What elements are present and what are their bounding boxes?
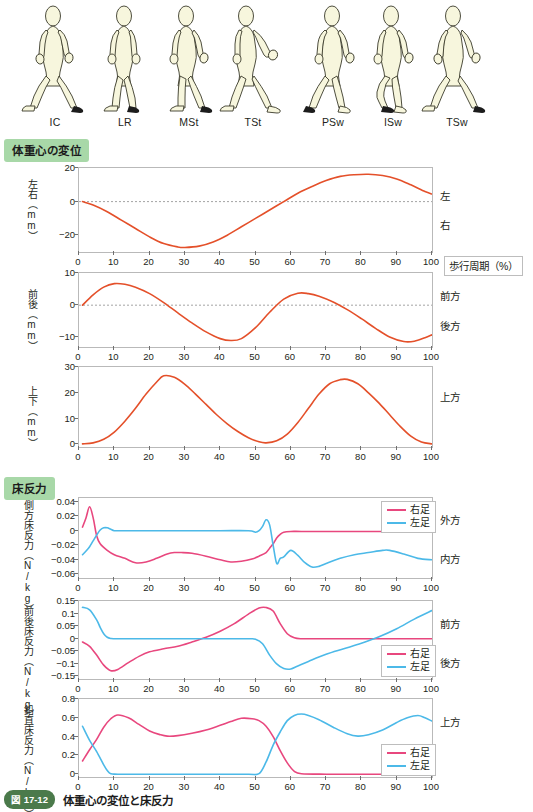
right-label-posterior-grf: 後方 [440,655,460,670]
x-axis-tick-label: 70 [320,451,331,462]
silhouette-isw [356,4,430,116]
y-axis-tick-label: 0.04 [42,495,75,506]
y-axis-tick-mark [74,600,78,601]
x-axis-tick-label: 50 [249,351,260,362]
y-axis-tick-mark [74,638,78,639]
y-axis-tick-mark [74,736,78,737]
x-axis-tick-label: 10 [108,256,119,267]
x-axis-tick-label: 10 [108,683,119,694]
x-axis-tick-mark [325,446,326,450]
y-axis-tick-mark [74,559,78,560]
x-axis-tick-label: 40 [214,683,225,694]
y-axis-tick-label: 0.6 [42,711,75,722]
legend-label-left-foot: 左足 [410,661,430,674]
x-axis-tick-mark [290,446,291,450]
gait-phase-label-tst: TSt [216,116,290,128]
plot-area-anteroposterior [78,272,433,348]
legend-label-right-foot: 右足 [410,648,430,661]
x-axis-tick-label: 60 [285,781,296,792]
y-axis-tick-mark [74,613,78,614]
x-axis-tick-label: 100 [423,256,439,267]
right-label-left-direction: 左 [440,188,450,203]
y-axis-tick-label: −0.1 [42,657,75,668]
x-axis-tick-mark [219,251,220,255]
y-axis-label-mediolateral-grf: 側方床反力（N/kg） [20,500,35,596]
y-axis-tick-label: −20 [42,229,75,240]
x-axis-tick-mark [219,346,220,350]
x-axis-tick-mark [396,346,397,350]
x-axis-tick-mark [149,678,150,682]
x-axis-tick-mark [360,251,361,255]
y-axis-tick-label: −0.02 [42,539,75,550]
series-line-左右変位 [83,174,432,247]
plot-area-mediolateral-grf [78,497,433,579]
series-line-上下変位 [83,375,432,443]
x-axis-tick-label: 30 [179,256,190,267]
legend-vertical-grf: 右足 左足 [381,744,436,776]
x-axis-tick-label: 0 [75,256,80,267]
right-label-medial: 内方 [440,551,460,566]
x-axis-tick-mark [219,446,220,450]
x-axis-tick-label: 60 [285,256,296,267]
x-axis-tick-label: 40 [214,351,225,362]
y-axis-tick-label: 30 [42,361,75,372]
legend-row-left-foot: 左足 [387,517,430,530]
y-axis-tick-label: −0.15 [42,670,75,681]
legend-swatch-left-foot [387,666,406,668]
legend-row-right-foot: 右足 [387,504,430,517]
x-axis-tick-label: 40 [214,781,225,792]
y-axis-tick-label: 0 [42,768,75,779]
legend-swatch-right-foot [387,653,406,655]
x-axis-tick-mark [325,776,326,780]
x-axis-tick-label: 0 [75,582,80,593]
y-axis-label-vertical: 上下（mm） [24,385,39,449]
x-axis-tick-mark [78,251,79,255]
y-axis-tick-mark [74,234,78,235]
x-axis-tick-mark [149,251,150,255]
gait-phase-label-ic: IC [18,116,92,128]
y-axis-tick-mark [74,201,78,202]
plot-area-mediolateral [78,167,433,253]
y-axis-tick-mark [74,754,78,755]
right-label-posterior: 後方 [440,318,460,333]
right-label-anterior: 前方 [440,288,460,303]
x-axis-tick-mark [360,577,361,581]
y-axis-tick-label: 0.2 [42,749,75,760]
x-axis-tick-mark [219,678,220,682]
x-axis-tick-label: 10 [108,351,119,362]
y-axis-tick-label: 0.15 [42,595,75,606]
x-axis-tick-mark [78,446,79,450]
x-axis-tick-mark [149,346,150,350]
x-axis-tick-mark [360,346,361,350]
x-axis-tick-mark [396,251,397,255]
x-axis-tick-mark [431,776,432,780]
x-axis-tick-mark [255,251,256,255]
x-axis-tick-mark [113,678,114,682]
y-axis-tick-mark [74,773,78,774]
figure-page: IC LR MSt TSt PSw ISw TSw 体重心の変位 左右（mm） … [0,0,533,812]
x-axis-tick-mark [325,577,326,581]
x-axis-tick-label: 30 [179,582,190,593]
x-axis-tick-mark [290,251,291,255]
x-axis-tick-label: 50 [249,256,260,267]
x-axis-tick-mark [325,251,326,255]
x-axis-tick-mark [78,577,79,581]
y-axis-tick-label: 0 [42,299,75,310]
series-line-右足 [83,507,432,563]
plot-canvas [79,699,432,777]
y-axis-tick-label: 20 [42,162,75,173]
y-axis-tick-mark [74,625,78,626]
series-line-左足 [83,520,432,568]
x-axis-tick-mark [431,346,432,350]
y-axis-tick-label: 10 [42,412,75,423]
x-axis-tick-mark [255,776,256,780]
plot-area-anteroposterior-grf [78,600,433,680]
plot-canvas [79,498,432,578]
y-axis-tick-label: 0.8 [42,693,75,704]
figure-caption: 図 17-12 体重心の変位と床反力 [4,790,173,809]
x-axis-tick-mark [290,776,291,780]
y-axis-tick-label: 0 [42,524,75,535]
x-axis-tick-mark [255,446,256,450]
plot-area-vertical [78,366,433,448]
legend-row-left-foot: 左足 [387,661,430,674]
